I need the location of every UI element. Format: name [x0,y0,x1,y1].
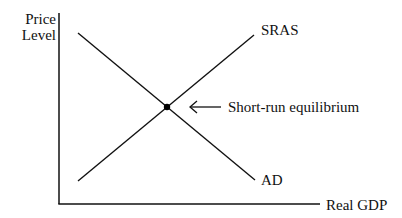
equilibrium-label: Short-run equilibrium [228,99,359,115]
y-axis-label: Price Level [22,11,56,43]
x-axis-label: Real GDP [326,197,387,213]
y-axis-label-line1: Price [22,11,56,27]
as-ad-diagram: Price Level SRAS AD Short-run equilibriu… [0,0,402,218]
sras-label: SRAS [261,22,299,38]
arrow-left-icon [190,101,221,113]
ad-label: AD [261,172,283,188]
y-axis-label-line2: Level [22,27,56,43]
equilibrium-point [164,104,170,110]
